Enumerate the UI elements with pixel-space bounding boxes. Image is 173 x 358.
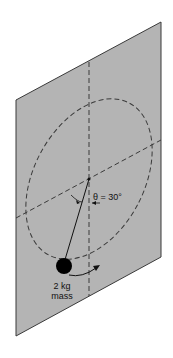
mass-ball	[56, 258, 72, 274]
angle-label: θ = 30°	[93, 192, 122, 202]
conical-pendulum-diagram: θ = 30° 2 kg mass	[0, 0, 173, 358]
mass-label-line1: 2 kg	[53, 281, 70, 291]
pivot-point	[88, 178, 91, 181]
mass-label-line2: mass	[51, 291, 73, 301]
